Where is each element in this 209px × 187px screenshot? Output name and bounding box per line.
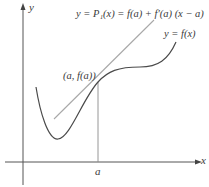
curve-equation-label: y = f(x) <box>164 29 196 40</box>
tick-label-a: a <box>95 166 101 177</box>
point-label: (a, f(a)) <box>63 71 96 82</box>
x-axis-label: x <box>201 155 206 166</box>
y-axis-label: y <box>29 2 34 13</box>
tangent-line-diagram: y x a (a, f(a)) y = P₁(x) = f(a) + f′(a)… <box>0 0 209 187</box>
tangent-equation-label: y = P₁(x) = f(a) + f′(a) (x − a) <box>76 9 204 20</box>
y-axis-arrow-icon <box>21 3 26 10</box>
function-curve <box>36 42 176 139</box>
